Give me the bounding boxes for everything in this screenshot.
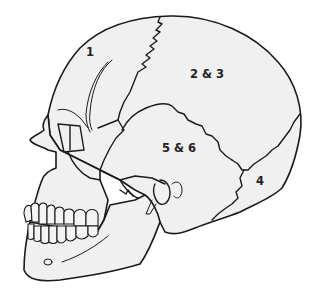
label-4: 4 [256,174,264,188]
label-1: 1 [86,45,94,59]
skull-diagram: 1 2 & 3 5 & 6 4 [0,0,312,298]
label-2-3: 2 & 3 [190,67,224,81]
coronoid-notch [120,190,133,196]
label-5-6: 5 & 6 [162,141,196,155]
